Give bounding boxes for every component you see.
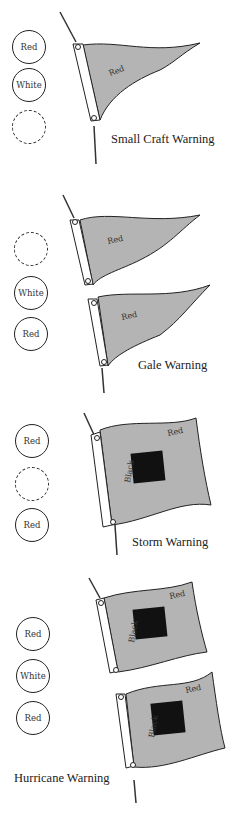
- light-circle-white: White: [16, 659, 50, 693]
- light-circle-red: Red: [15, 508, 49, 542]
- light-circle-white: White: [14, 276, 48, 310]
- grommet-icon: [76, 45, 81, 50]
- grommet-icon: [119, 695, 124, 700]
- light-circle-off: [15, 467, 49, 501]
- pennant-flag-red-lower: [98, 285, 210, 366]
- grommet-icon: [111, 520, 116, 525]
- storm-flag-assembly: Red Black: [84, 413, 211, 555]
- caption-gale-warning: Gale Warning: [138, 358, 207, 373]
- light-circle-off: [12, 110, 46, 144]
- light-circle-red: Red: [14, 317, 48, 351]
- light-label: Red: [25, 629, 42, 639]
- light-label: Red: [23, 329, 40, 339]
- light-label: Red: [24, 436, 41, 446]
- caption-small-craft-warning: Small Craft Warning: [111, 132, 215, 147]
- light-circle-white: White: [12, 68, 46, 102]
- grommet-icon: [102, 360, 107, 365]
- light-circle-off: [14, 232, 48, 266]
- light-circle-red: Red: [15, 424, 49, 458]
- light-label: White: [20, 671, 45, 681]
- grommet-icon: [131, 763, 136, 768]
- caption-hurricane-warning: Hurricane Warning: [14, 771, 110, 786]
- grommet-icon: [73, 220, 78, 225]
- grommet-icon: [114, 668, 119, 673]
- pennant-flag-red-upper: [80, 215, 200, 285]
- grommet-icon: [92, 301, 97, 306]
- light-circle-red: Red: [12, 30, 46, 64]
- pennant-flag-red: [83, 43, 200, 120]
- grommet-icon: [95, 436, 100, 441]
- grommet-icon: [86, 279, 91, 284]
- grommet-icon: [99, 601, 104, 606]
- light-label: Red: [25, 713, 42, 723]
- light-label: White: [16, 80, 41, 90]
- black-center-square: [131, 450, 166, 483]
- light-label: Red: [24, 520, 41, 530]
- light-label: Red: [21, 42, 38, 52]
- light-circle-red: Red: [16, 701, 50, 735]
- light-label: White: [18, 288, 43, 298]
- light-circle-red: Red: [16, 617, 50, 651]
- caption-storm-warning: Storm Warning: [132, 535, 208, 550]
- grommet-icon: [92, 116, 97, 121]
- hurricane-flag-assembly: Red Black Red Black: [89, 578, 225, 803]
